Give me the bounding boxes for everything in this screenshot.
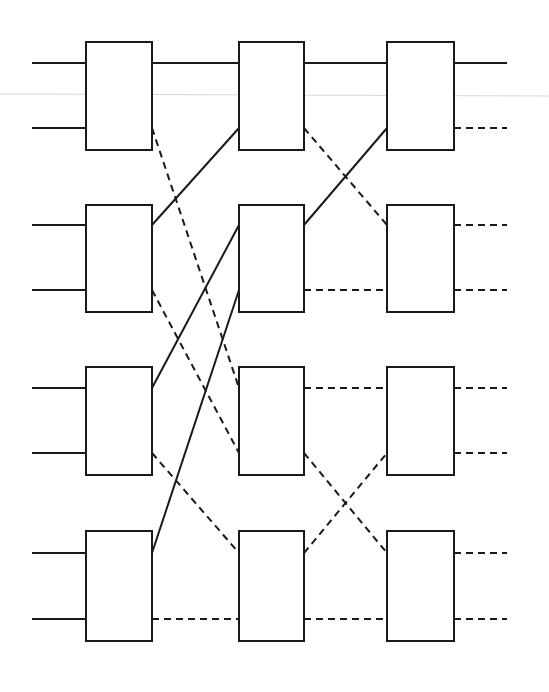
switch-box-stage2-row1 [239,42,304,150]
switch-box-stage1-row4 [86,531,152,641]
connection-c0r0bottom-to-c1r2top [152,128,239,388]
connection-c0r2bottom-to-c1r3top [152,453,239,553]
switch-box-stage1-row2 [86,205,152,312]
switch-box-stage3-row3 [387,367,454,475]
connection-c0r3top-to-c1r1bottom [152,290,239,553]
switch-box-stage3-row2 [387,205,454,312]
switch-box-stage3-row4 [387,531,454,641]
switch-boxes-layer [86,42,454,641]
connection-c0r2top-to-c1r1top [152,225,239,388]
connection-c0r1bottom-to-c1r2bottom [152,290,239,453]
switch-box-stage1-row1 [86,42,152,150]
connection-c0r1top-to-c1r0bottom [152,128,239,225]
switch-box-stage2-row4 [239,531,304,641]
switch-box-stage3-row1 [387,42,454,150]
butterfly-network-diagram [0,0,549,692]
switch-box-stage1-row3 [86,367,152,475]
switch-box-stage2-row2 [239,205,304,312]
switch-box-stage2-row3 [239,367,304,475]
